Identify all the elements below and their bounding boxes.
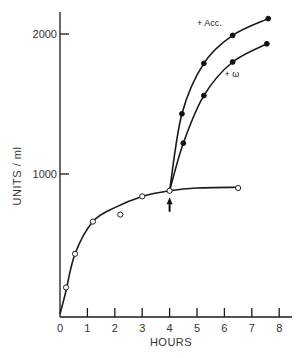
x-tick-label: 7	[249, 322, 255, 334]
point-control	[72, 251, 77, 256]
point-acc	[266, 16, 271, 21]
y-axis-title: UNITS / ml	[11, 147, 23, 206]
point-acc	[230, 33, 235, 38]
x-tick-label: 3	[139, 322, 145, 334]
x-tick-label: 1	[84, 322, 90, 334]
point-control	[118, 212, 123, 217]
x-tick-label: 4	[167, 322, 173, 334]
data-curves	[60, 19, 268, 314]
curve-annotation: + Acc.	[197, 18, 222, 28]
x-axis-title: HOURS	[150, 336, 192, 348]
curve-acc	[170, 19, 269, 191]
curve-annotation: + ω	[224, 69, 239, 79]
growth-chart: 01234567810002000 + Acc.+ ω HOURS UNITS …	[0, 0, 302, 358]
x-tick-label: 5	[194, 322, 200, 334]
point-control	[167, 188, 172, 193]
point-omega	[230, 60, 235, 65]
x-tick-label: 6	[221, 322, 227, 334]
point-omega	[264, 41, 269, 46]
point-omega	[201, 93, 206, 98]
x-tick-label: 8	[276, 322, 282, 334]
point-acc	[180, 111, 185, 116]
point-control	[63, 285, 68, 290]
y-tick-label: 2000	[33, 28, 57, 40]
x-tick-label: 0	[57, 322, 63, 334]
point-omega	[181, 141, 186, 146]
point-acc	[201, 61, 206, 66]
y-tick-label: 1000	[33, 168, 57, 180]
point-control	[140, 194, 145, 199]
curve-control	[60, 187, 238, 314]
curve-omega	[170, 44, 267, 191]
point-control	[90, 219, 95, 224]
arrow-up-icon	[167, 197, 173, 204]
point-control	[236, 185, 241, 190]
x-tick-label: 2	[112, 322, 118, 334]
annotations: + Acc.+ ω	[167, 18, 240, 212]
axes: 01234567810002000	[33, 12, 292, 334]
